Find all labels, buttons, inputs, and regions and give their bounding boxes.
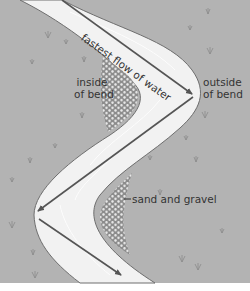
diagram-canvas (0, 0, 250, 291)
inside-bend-line2: of bend (74, 88, 110, 100)
outside-bend-line1: outside (203, 76, 243, 88)
inside-bend-label: inside of bend (74, 76, 110, 100)
outside-bend-label: outside of bend (203, 76, 243, 100)
sand-gravel-label: sand and gravel (132, 193, 217, 205)
inside-bend-line1: inside (74, 76, 110, 88)
river-meander-diagram: fastest flow of water inside of bend out… (0, 0, 250, 291)
outside-bend-line2: of bend (203, 88, 243, 100)
